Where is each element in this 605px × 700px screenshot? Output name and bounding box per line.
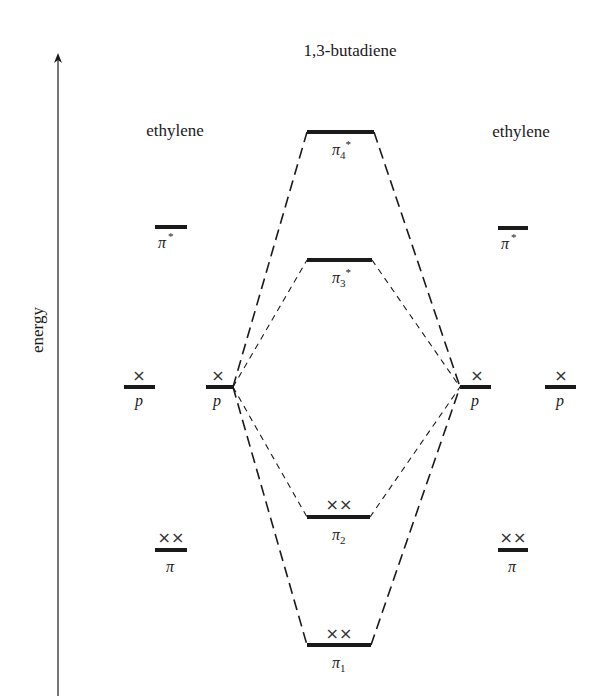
pi1-label: π1	[332, 654, 346, 674]
right-ethylene-pi-star-level: π*	[498, 226, 528, 252]
left-ethylene-p-outer-level: × p	[124, 366, 155, 410]
right-p-outer-label: p	[555, 392, 564, 410]
right-p-inner-electron: ×	[470, 366, 483, 385]
butadiene-pi3-level: π3*	[307, 258, 372, 289]
right-ethylene-p-inner-level: × p	[460, 366, 491, 410]
right-ethylene-label: ethylene	[492, 122, 550, 141]
energy-axis-label: energy	[28, 307, 47, 353]
left-pi-electrons: ××	[158, 528, 185, 547]
mo-energy-diagram: energy 1,3-butadiene ethylene ethylene π…	[0, 0, 605, 700]
left-ethylene-pi-star-level: π*	[155, 225, 187, 251]
pi1-electrons: ××	[326, 624, 353, 643]
pi4-label: π4*	[332, 138, 351, 161]
pi3-label: π3*	[332, 266, 351, 289]
right-pi-star-label: π*	[501, 231, 517, 252]
right-p-inner-label: p	[470, 392, 479, 410]
butadiene-title: 1,3-butadiene	[304, 41, 397, 60]
right-ethylene-pi-level: ×× π	[498, 528, 528, 575]
left-p-outer-electron: ×	[132, 366, 145, 385]
right-pi-label: π	[508, 558, 517, 575]
butadiene-pi1-level: ×× π1	[307, 624, 371, 674]
pi2-label: π2	[332, 526, 346, 546]
correlation-lines	[233, 132, 460, 645]
pi2-electrons: ××	[326, 495, 353, 514]
energy-axis: energy	[28, 53, 62, 696]
left-ethylene-p-inner-level: × p	[206, 366, 233, 410]
right-ethylene-p-outer-level: × p	[545, 366, 576, 410]
left-ethylene-pi-level: ×× π	[155, 528, 187, 575]
butadiene-pi2-level: ×× π2	[307, 495, 370, 546]
left-pi-star-label: π*	[158, 230, 174, 251]
left-ethylene-label: ethylene	[146, 121, 204, 140]
left-p-inner-electron: ×	[211, 366, 224, 385]
right-pi-electrons: ××	[500, 528, 527, 547]
left-p-inner-label: p	[212, 392, 221, 410]
butadiene-pi4-level: π4*	[307, 130, 374, 161]
right-p-outer-electron: ×	[554, 366, 567, 385]
left-pi-label: π	[166, 558, 175, 575]
left-p-outer-label: p	[134, 392, 143, 410]
